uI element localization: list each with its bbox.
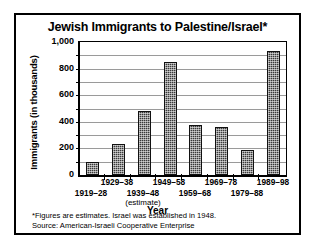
x-label-1919-28: 1919–28 [68, 188, 114, 198]
bar-slot [260, 42, 286, 175]
bar-1989-98 [267, 51, 280, 175]
bar-slot [209, 42, 235, 175]
bar-1929-38 [112, 144, 125, 175]
x-label-text: 1979–88 [231, 188, 263, 198]
x-label-1969-78: 1969–78 [198, 177, 244, 187]
y-tick-label: 1,000 [51, 36, 74, 46]
bar-1939-48 [138, 111, 151, 175]
x-label-1979-88: 1979–88 [224, 188, 270, 198]
x-label-text: 1969–78 [205, 177, 237, 187]
y-tick-label: 600 [59, 89, 74, 99]
bar-slot [132, 42, 158, 175]
x-label-text: 1949–58 [153, 177, 185, 187]
bar-1949-58 [164, 62, 177, 175]
x-label-1929-38: 1929–38 [94, 177, 140, 187]
bar-1979-88 [241, 150, 254, 175]
x-label-text: 1919–28 [75, 188, 107, 198]
bar-slot [106, 42, 132, 175]
x-label-1989-98: 1989–98 [250, 177, 296, 187]
chart-figure-frame: Jewish Immigrants to Palestine/Israel* I… [14, 13, 301, 235]
bar-1919-28 [86, 162, 99, 175]
bar-slot [183, 42, 209, 175]
x-label-text: 1959–68 [179, 188, 211, 198]
y-tick-label: 200 [59, 142, 74, 152]
y-tick-label: 400 [59, 116, 74, 126]
footnote-estimate: *Figures are estimates. Israel was estab… [32, 211, 216, 221]
y-tick-label: 800 [59, 63, 74, 73]
x-label-1949-58: 1949–58 [146, 177, 192, 187]
bar-slot [80, 42, 106, 175]
x-label-text: 1939–48 [127, 188, 159, 198]
bar-1959-68 [189, 125, 202, 175]
bar-1969-78 [215, 127, 228, 175]
x-label-text: 1929–38 [101, 177, 133, 187]
bar-slot [235, 42, 261, 175]
plot-area [78, 41, 287, 177]
chart-footnotes: *Figures are estimates. Israel was estab… [32, 211, 216, 231]
x-label-1959-68: 1959–68 [172, 188, 218, 198]
bar-series [80, 42, 286, 175]
bar-slot [157, 42, 183, 175]
x-label-text: 1989–98 [257, 177, 289, 187]
footnote-source: Source: American-Israeli Cooperative Ent… [32, 221, 216, 231]
